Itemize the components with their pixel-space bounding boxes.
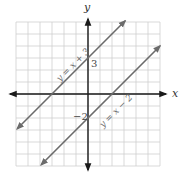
y-intercept-label-3: 3 (91, 58, 97, 69)
y-axis-label: y (83, 1, 91, 14)
equation-label-line2: y = x − 2 (97, 92, 135, 130)
x-axis-label: x (172, 87, 179, 100)
equation-label-line1: y = x + 3 (54, 46, 92, 84)
coordinate-plane: x y 3 −2 y = x + 3 y = x − 2 (0, 0, 180, 173)
line-y-equals-x-minus-2 (41, 46, 160, 165)
y-intercept-label-neg-2: −2 (73, 111, 88, 122)
